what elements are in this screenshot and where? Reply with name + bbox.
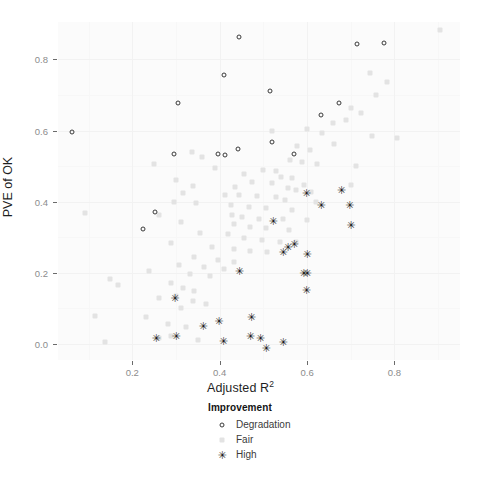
data-point-fair [300,159,305,164]
data-point-fair [255,194,260,199]
legend-item-label: High [236,449,257,460]
y-tick-mark [53,273,57,274]
data-point-fair [157,335,162,340]
data-point-fair [308,189,313,194]
gridline-major-horizontal [58,273,460,274]
data-point-fair [203,302,208,307]
data-point-fair [222,192,227,197]
data-point-high [151,333,160,342]
data-point-fair [189,149,194,154]
data-point-fair [286,228,291,233]
data-point-high [279,248,288,257]
data-point-fair [367,70,372,75]
data-point-fair [200,155,205,160]
data-point-fair [240,214,245,219]
x-tick-label: 0.6 [300,367,313,378]
data-point-fair [331,120,336,125]
data-point-degradation [236,147,241,152]
x-axis-title-superscript: 2 [269,379,274,389]
data-point-high [279,338,288,347]
data-point-degradation [237,35,242,40]
legend-item-high[interactable]: High [214,447,388,462]
y-tick-mark [53,344,57,345]
data-point-high [235,267,244,276]
x-tick-label: 0.8 [388,367,401,378]
data-point-fair [229,213,234,218]
data-point-fair [179,220,184,225]
data-point-fair [208,273,213,278]
legend-item-fair[interactable]: Fair [214,432,388,447]
data-point-fair [92,314,97,319]
data-point-high [289,239,298,248]
gridline-minor-horizontal [58,95,460,96]
gridline-major-horizontal [58,202,460,203]
data-point-fair [332,142,337,147]
data-point-fair [369,133,374,138]
data-point-fair [107,277,112,282]
data-point-fair [344,117,349,122]
data-point-high [247,313,256,322]
data-point-degradation [267,89,272,94]
legend: Improvement DegradationFairHigh [208,402,388,462]
data-point-fair [168,241,173,246]
data-point-fair [144,315,149,320]
gridline-minor-horizontal [58,237,460,238]
legend-items: DegradationFairHigh [208,417,388,462]
data-point-fair [168,334,173,339]
data-point-fair [209,245,214,250]
legend-key-open-circle-icon [214,417,230,432]
data-point-degradation [355,42,360,47]
data-point-fair [290,176,295,181]
data-point-fair [290,207,295,212]
data-point-fair [116,283,121,288]
data-point-fair [231,221,236,226]
data-point-fair [83,211,88,216]
data-point-fair [301,182,306,187]
legend-title: Improvement [208,402,388,413]
data-point-fair [191,299,196,304]
x-axis-title: Adjusted R2 [0,381,481,395]
data-point-degradation [381,41,386,46]
data-point-fair [157,213,162,218]
data-point-fair [248,248,253,253]
data-point-fair [278,174,283,179]
data-point-fair [287,157,292,162]
data-point-fair [257,216,262,221]
data-point-fair [270,181,275,186]
data-point-fair [177,263,182,268]
legend-item-label: Fair [236,434,253,445]
data-point-fair [183,324,188,329]
data-point-fair [192,254,197,259]
data-point-degradation [336,100,341,105]
legend-key-light-square-icon [214,432,230,447]
y-tick-label: 0.6 [35,125,48,136]
data-point-high [268,216,277,225]
x-axis-title-text: Adjusted R [207,381,269,395]
data-point-high [337,186,346,195]
data-point-fair [191,183,196,188]
data-point-fair [228,203,233,208]
data-point-fair [180,190,185,195]
data-point-fair [247,205,252,210]
x-tick-mark [132,361,133,365]
legend-marker-icon [220,422,225,427]
x-tick-mark [394,361,395,365]
data-point-degradation [291,152,296,157]
data-point-high [199,322,208,331]
data-point-fair [157,296,162,301]
data-point-fair [294,188,299,193]
y-tick-label: 0.4 [35,196,48,207]
data-point-fair [168,280,173,285]
data-point-fair [237,193,242,198]
data-point-fair [195,337,200,342]
data-point-fair [198,230,203,235]
data-point-fair [294,239,299,244]
gridline-major-horizontal [58,131,460,132]
x-tick-label: 0.2 [126,367,139,378]
data-point-fair [231,247,236,252]
data-point-fair [281,217,286,222]
y-tick-mark [53,59,57,60]
gridline-major-vertical [394,22,395,360]
legend-item-degradation[interactable]: Degradation [214,417,388,432]
data-point-degradation [270,139,275,144]
